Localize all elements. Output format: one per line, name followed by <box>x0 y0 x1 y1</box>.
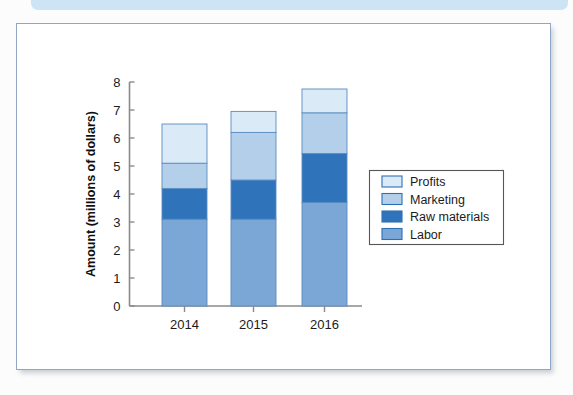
bar-segment-raw-materials-2016[interactable] <box>302 153 347 202</box>
legend-label-raw-materials: Raw materials <box>410 210 489 224</box>
y-axis-title: Amount (millions of dollars) <box>84 111 98 277</box>
chart-canvas: 012345678 201420152016 Amount (millions … <box>17 24 550 369</box>
legend-swatch-profits[interactable] <box>382 176 402 187</box>
y-tick-label: 4 <box>113 187 120 202</box>
bar-segment-marketing-2015[interactable] <box>231 132 276 180</box>
chart-legend[interactable]: ProfitsMarketingRaw materialsLabor <box>370 171 504 245</box>
bar-segment-profits-2015[interactable] <box>231 111 276 132</box>
y-tick-label: 3 <box>113 215 120 230</box>
stacked-bar-chart-figure: 012345678 201420152016 Amount (millions … <box>17 24 550 369</box>
scanned-page: 012345678 201420152016 Amount (millions … <box>0 0 573 395</box>
bar-segment-marketing-2014[interactable] <box>162 163 207 188</box>
bar-segment-raw-materials-2015[interactable] <box>231 180 276 219</box>
y-axis-ticks: 012345678 <box>113 75 134 314</box>
page-top-banner <box>31 0 568 10</box>
bar-segment-raw-materials-2014[interactable] <box>162 188 207 219</box>
x-axis-category-labels: 201420152016 <box>170 317 339 332</box>
bar-segment-profits-2016[interactable] <box>302 89 347 113</box>
content-panel: 012345678 201420152016 Amount (millions … <box>16 23 551 370</box>
y-tick-label: 7 <box>113 103 120 118</box>
y-tick-label: 6 <box>113 131 120 146</box>
bar-segment-labor-2016[interactable] <box>302 202 347 306</box>
bar-segment-profits-2014[interactable] <box>162 124 207 163</box>
legend-label-profits: Profits <box>410 175 445 189</box>
y-tick-label: 5 <box>113 159 120 174</box>
bar-segment-labor-2015[interactable] <box>231 219 276 306</box>
x-axis-label-2015: 2015 <box>239 317 268 332</box>
y-tick-label: 8 <box>113 75 120 90</box>
legend-label-marketing: Marketing <box>410 193 465 207</box>
legend-label-labor: Labor <box>410 228 442 242</box>
x-axis-ticks <box>185 306 325 312</box>
y-tick-label: 2 <box>113 243 120 258</box>
y-tick-label: 1 <box>113 271 120 286</box>
legend-swatch-marketing[interactable] <box>382 194 402 205</box>
x-axis-label-2014: 2014 <box>170 317 199 332</box>
bar-segment-marketing-2016[interactable] <box>302 113 347 154</box>
bars-group <box>162 89 347 306</box>
legend-swatch-labor[interactable] <box>382 229 402 240</box>
y-tick-label: 0 <box>113 299 120 314</box>
bar-segment-labor-2014[interactable] <box>162 219 207 306</box>
x-axis-label-2016: 2016 <box>310 317 339 332</box>
legend-swatch-raw-materials[interactable] <box>382 211 402 222</box>
